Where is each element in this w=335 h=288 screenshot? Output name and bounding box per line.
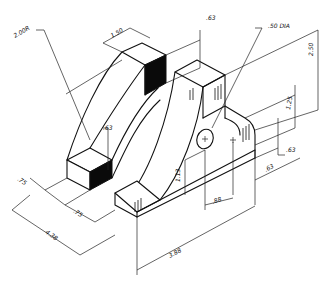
isometric-drawing: 2.00R 1.50 .63 .50 DIA 2.50 1.25 .63 .63… [0,0,335,288]
label-hole-spacing: .88 [211,195,223,205]
dimension-labels: 2.00R 1.50 .63 .50 DIA 2.50 1.25 .63 .63… [12,14,314,259]
label-overall-height: 2.50 [307,42,314,56]
label-step-height: 1.25 [284,96,293,111]
label-radius: 2.00R [12,24,31,39]
label-hole-center-height: 1.13 [174,168,181,182]
label-overall-length: 3.88 [167,246,182,259]
label-inner-gap: .63 [103,124,113,131]
label-top-width: 1.50 [109,26,124,39]
label-hole-dia: .50 DIA [268,22,290,29]
label-right-step: .63 [286,146,296,153]
part-outline [67,43,255,217]
label-left-depth: .75 [16,175,28,186]
label-slot-width: .75 [72,207,84,218]
label-top-thickness: .63 [206,14,216,21]
